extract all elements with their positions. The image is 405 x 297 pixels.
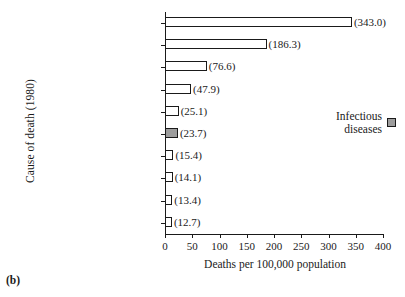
x-axis-tick-label: 350: [348, 240, 365, 252]
bar-row: Malignant neoplasms(186.3): [165, 34, 383, 56]
bar-value-label: (186.3): [269, 34, 301, 54]
gray-square-swatch-icon: [387, 118, 396, 127]
bar: [165, 61, 207, 71]
bar-row: Cerebrovascular diseases(76.6): [165, 56, 383, 78]
bar: [165, 217, 172, 227]
bar-value-label: (343.0): [354, 12, 386, 32]
x-axis-tick-label: 100: [211, 240, 228, 252]
bar-row: Suicide(12.7): [165, 212, 383, 234]
bar-value-label: (14.1): [175, 167, 202, 187]
x-axis-title: Deaths per 100,000 population: [165, 258, 385, 270]
x-axis-tick: [192, 234, 193, 238]
bar: [165, 195, 172, 205]
bar-value-label: (23.7): [180, 123, 207, 143]
x-axis-tick: [329, 234, 330, 238]
x-axis-tick-label: 150: [239, 240, 256, 252]
figure-panel-b: Cause of death (1980) Diseases of the he…: [0, 0, 405, 297]
bar-value-label: (25.1): [181, 101, 208, 121]
bar-row: All accidents(47.9): [165, 79, 383, 101]
bar-value-label: (15.4): [175, 145, 202, 165]
x-axis-tick-label: 50: [187, 240, 198, 252]
bar-value-label: (12.7): [174, 212, 201, 232]
bar: [165, 39, 267, 49]
panel-caption: (b): [6, 274, 20, 286]
bar: [165, 128, 178, 138]
x-axis-tick: [301, 234, 302, 238]
bar-value-label: (76.6): [209, 56, 236, 76]
bar-row: Diseases of the heart(343.0): [165, 12, 383, 34]
legend: Infectious diseases: [296, 110, 396, 135]
bar-value-label: (47.9): [193, 79, 220, 99]
y-axis-title: Cause of death (1980): [24, 31, 36, 231]
bar-value-label: (13.4): [174, 190, 201, 210]
x-axis-tick-label: 200: [266, 240, 283, 252]
bar-row: Atherosclerosis(13.4): [165, 190, 383, 212]
bar: [165, 150, 173, 160]
x-axis-tick: [274, 234, 275, 238]
bar: [165, 84, 191, 94]
x-axis-tick: [383, 234, 384, 238]
x-axis-tick-label: 0: [162, 240, 168, 252]
bar: [165, 172, 173, 182]
bar: [165, 17, 352, 27]
legend-label: Infectious diseases: [336, 110, 387, 135]
bar-row: Diabetes mellitus(15.4): [165, 145, 383, 167]
x-axis-tick: [356, 234, 357, 238]
x-axis-tick-label: 300: [320, 240, 337, 252]
x-axis-tick: [220, 234, 221, 238]
x-axis-tick-label: 400: [375, 240, 392, 252]
bar: [165, 106, 179, 116]
bar-row: Cirrhosis of the liver(14.1): [165, 167, 383, 189]
x-axis-tick: [247, 234, 248, 238]
x-axis-tick: [165, 234, 166, 238]
x-axis-tick-label: 250: [293, 240, 310, 252]
